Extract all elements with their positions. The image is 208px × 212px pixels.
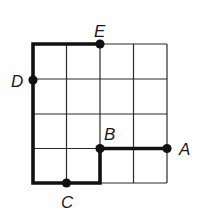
point-a xyxy=(162,144,171,153)
point-d xyxy=(28,75,37,84)
label-c: C xyxy=(61,193,74,212)
point-b xyxy=(95,144,104,153)
label-e: E xyxy=(94,22,106,41)
label-b: B xyxy=(104,125,115,144)
point-c xyxy=(62,178,71,187)
label-a: A xyxy=(178,140,190,159)
grid-diagram: A B C D E xyxy=(0,0,208,212)
label-d: D xyxy=(11,72,23,91)
